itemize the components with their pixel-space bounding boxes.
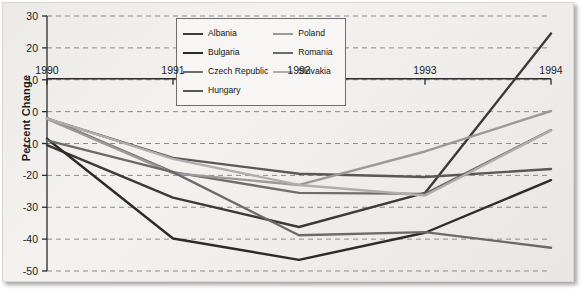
legend-label: Hungary <box>208 81 273 100</box>
x-axis-tick-label: 1990 <box>35 64 58 76</box>
chart-legend: AlbaniaPolandBulgariaRomaniaCzech Republ… <box>176 18 346 106</box>
legend-label: Czech Republic <box>208 62 273 81</box>
legend-label: Poland <box>298 24 337 43</box>
legend-label: Bulgaria <box>208 43 273 62</box>
legend-row: Czech RepublicSlovakia <box>183 62 338 81</box>
chart-figure: Percent Change 3020100-10-20-30-40-50 Al… <box>0 0 584 289</box>
legend-label: Albania <box>208 24 273 43</box>
legend-swatch-icon <box>183 52 203 54</box>
x-axis-tick-label: 1994 <box>539 64 562 76</box>
x-axis-tick-label: 1993 <box>413 64 436 76</box>
legend-row: Hungary <box>183 81 338 100</box>
x-axis-tick-label: 1991 <box>161 64 184 76</box>
legend-swatch-icon <box>183 71 203 73</box>
legend-row: AlbaniaPoland <box>183 24 338 43</box>
series-line-bulgaria <box>47 139 551 260</box>
legend-spacer <box>273 81 298 100</box>
legend-label: Romania <box>298 43 337 62</box>
legend-swatch-icon <box>183 90 203 92</box>
legend-spacer <box>298 81 337 100</box>
legend-table: AlbaniaPolandBulgariaRomaniaCzech Republ… <box>183 24 338 100</box>
legend-swatch-icon <box>183 33 203 35</box>
legend-row: BulgariaRomania <box>183 43 338 62</box>
x-axis-tick-label: 1992 <box>287 64 310 76</box>
legend-swatch-icon <box>273 52 293 54</box>
legend-swatch-icon <box>273 33 293 35</box>
